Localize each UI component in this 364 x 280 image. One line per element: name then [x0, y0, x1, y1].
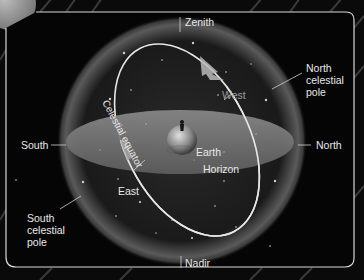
label-horizon: Horizon [203, 163, 239, 175]
label-north-celestial-pole: North celestial pole [306, 62, 350, 98]
label-west: West [222, 89, 246, 101]
label-zenith: Zenith [185, 16, 214, 28]
label-nadir: Nadir [185, 257, 210, 269]
label-south: South [21, 139, 48, 151]
label-north: North [316, 139, 342, 151]
label-east: East [118, 185, 139, 197]
label-earth: Earth [196, 146, 221, 158]
label-south-celestial-pole: South celestial pole [27, 212, 71, 248]
celestial-sphere-diagram: Zenith Nadir South North East West Earth… [0, 0, 364, 280]
observer-icon [180, 124, 184, 131]
